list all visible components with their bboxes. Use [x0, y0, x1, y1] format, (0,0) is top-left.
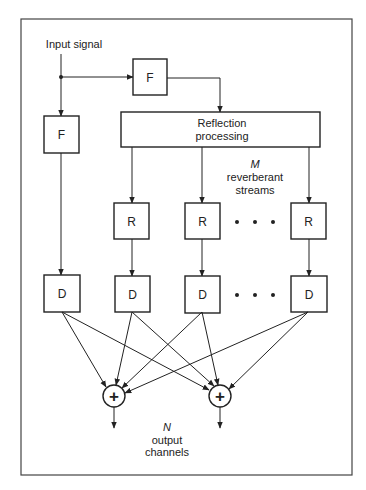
svg-text:D: D [128, 288, 137, 302]
input-signal-label: Input signal [46, 38, 102, 50]
svg-text:D: D [305, 288, 314, 302]
svg-text:processing: processing [195, 130, 248, 142]
svg-text:Reflection: Reflection [198, 117, 247, 129]
svg-text:R: R [304, 215, 313, 229]
svg-text:F: F [58, 128, 65, 142]
filter-box-top: F [133, 59, 167, 95]
svg-text:N: N [163, 421, 171, 433]
svg-text:streams: streams [235, 184, 275, 196]
svg-text:D: D [198, 288, 207, 302]
svg-text:channels: channels [145, 446, 190, 458]
plus-icon: + [215, 387, 225, 406]
reverb-box-3: R [291, 203, 326, 239]
delay-box-0: D [44, 275, 80, 312]
output-channels-label: N output channels [145, 421, 190, 458]
svg-text:F: F [146, 71, 153, 85]
svg-text:R: R [198, 215, 207, 229]
summer-right: + [209, 385, 231, 407]
svg-text:M: M [250, 158, 260, 170]
svg-text:reverberant: reverberant [227, 171, 283, 183]
reverb-ellipsis [235, 220, 275, 224]
plus-icon: + [109, 387, 119, 406]
outer-frame [21, 19, 352, 475]
reverb-block-diagram: Input signal F F Reflection processing M… [0, 0, 366, 490]
delay-box-3: D [291, 276, 327, 312]
reverberant-streams-label: M reverberant streams [227, 158, 283, 196]
reverb-box-1: R [114, 203, 149, 239]
delay-box-1: D [115, 276, 150, 312]
mixing-lines [62, 312, 308, 393]
filter-to-reflection [167, 78, 220, 112]
svg-text:R: R [127, 215, 136, 229]
svg-text:D: D [58, 287, 67, 301]
svg-text:output: output [152, 434, 183, 446]
filter-box-left: F [44, 116, 79, 153]
reverb-box-2: R [185, 203, 220, 239]
summer-left: + [103, 385, 125, 407]
delay-ellipsis [235, 293, 275, 297]
delay-box-2: D [185, 276, 220, 313]
reflection-processing-box: Reflection processing [121, 112, 320, 147]
